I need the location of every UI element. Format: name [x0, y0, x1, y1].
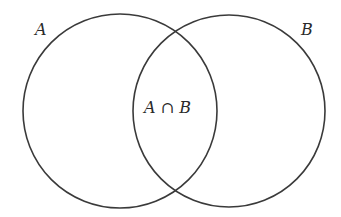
- set-b-label: B: [300, 20, 313, 39]
- intersection-label: A ∩ B: [142, 98, 191, 117]
- venn-diagram: A B A ∩ B: [0, 0, 341, 217]
- set-a-label: A: [33, 20, 47, 39]
